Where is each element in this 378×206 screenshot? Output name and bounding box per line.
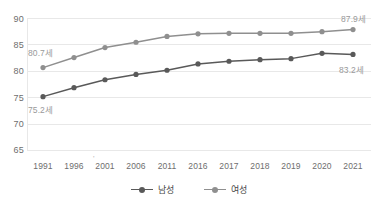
- male-start-value-label: 75.2세: [28, 103, 53, 115]
- x-axis-tick-2001: 2001: [88, 161, 122, 171]
- x-axis-tick-2006: 2006: [119, 161, 153, 171]
- male-end-value-label: 83.2세: [339, 63, 364, 75]
- x-axis-tick-2019: 2019: [274, 161, 308, 171]
- legend-label-male: 남성: [158, 183, 174, 196]
- x-axis-tick-2020: 2020: [305, 161, 339, 171]
- legend-marker-female-icon: [204, 185, 226, 194]
- x-axis-tick-2021: 2021: [336, 161, 370, 171]
- x-axis-tick-2017: 2017: [212, 161, 246, 171]
- female-start-value-label: 80.7세: [28, 46, 53, 58]
- legend-item-male[interactable]: 남성: [131, 183, 174, 196]
- legend-label-female: 여성: [231, 183, 247, 196]
- x-axis-tick-2018: 2018: [243, 161, 277, 171]
- x-axis-tick-2016: 2016: [181, 161, 215, 171]
- life-expectancy-line-chart: 90 85 80 75 70 65 ' 1991 1996 2001 2006 …: [0, 0, 378, 206]
- x-axis-tick-1996: 1996: [57, 161, 91, 171]
- legend-item-female[interactable]: 여성: [204, 183, 247, 196]
- chart-legend: 남성 여성: [0, 183, 378, 196]
- plot-area: [0, 0, 378, 206]
- x-axis-tick-1991: 1991: [26, 161, 60, 171]
- x-axis-tick-2011: 2011: [150, 161, 184, 171]
- female-end-value-label: 87.9세: [341, 12, 366, 24]
- legend-marker-male-icon: [131, 185, 153, 194]
